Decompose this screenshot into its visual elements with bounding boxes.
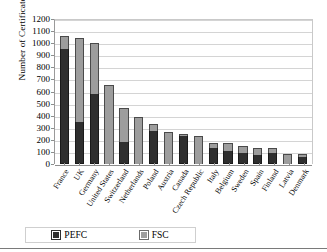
- bar-segment-pefc[interactable]: [298, 157, 307, 164]
- bar-slot: [236, 20, 251, 164]
- stacked-bar[interactable]: [149, 124, 158, 164]
- x-label-slot: Netherlands: [131, 166, 146, 222]
- bar-segment-fsc[interactable]: [119, 108, 128, 142]
- bar-segment-pefc[interactable]: [119, 142, 128, 164]
- bar-slot: [161, 20, 176, 164]
- x-label-slot: Sweden: [236, 166, 251, 222]
- bar-slot: [102, 20, 117, 164]
- bar-segment-fsc[interactable]: [90, 43, 99, 94]
- bar-slot: [280, 20, 295, 164]
- x-tick-mark: [304, 163, 305, 166]
- legend-entry[interactable]: FSC: [140, 230, 169, 240]
- bar-segment-fsc[interactable]: [134, 117, 143, 164]
- bar-segment-fsc[interactable]: [149, 124, 158, 131]
- bar-slot: [250, 20, 265, 164]
- bar-segment-pefc[interactable]: [209, 148, 218, 164]
- stacked-bar[interactable]: [209, 143, 218, 164]
- bar-slot: [221, 20, 236, 164]
- y-tick-label-400: 400: [37, 111, 51, 120]
- bar-slot: [265, 20, 280, 164]
- x-tick-mark: [199, 163, 200, 166]
- y-tick-label-200: 200: [37, 135, 51, 144]
- stacked-bar[interactable]: [238, 146, 247, 164]
- legend-entry[interactable]: PEFC: [52, 230, 87, 240]
- bar-slot: [57, 20, 72, 164]
- stacked-bar[interactable]: [194, 136, 203, 164]
- chart-legend: PEFCFSC: [25, 227, 196, 243]
- legend-swatch-fsc-icon: [140, 231, 148, 239]
- bar-slot: [176, 20, 191, 164]
- bar-segment-pefc[interactable]: [179, 136, 188, 164]
- stacked-bar[interactable]: [253, 148, 262, 164]
- bar-segment-pefc[interactable]: [90, 94, 99, 164]
- figure-bottom-rule: [0, 248, 327, 249]
- x-tick-mark: [229, 163, 230, 166]
- x-axis-label: France: [52, 168, 71, 191]
- x-tick-mark: [154, 163, 155, 166]
- bar-slot: [146, 20, 161, 164]
- y-tick-label-600: 600: [37, 87, 51, 96]
- stacked-bar[interactable]: [223, 143, 232, 164]
- x-tick-mark: [214, 163, 215, 166]
- x-tick-mark: [244, 163, 245, 166]
- bar-slot: [117, 20, 132, 164]
- bar-segment-fsc[interactable]: [223, 143, 232, 151]
- stacked-bar[interactable]: [75, 38, 84, 164]
- x-tick-mark: [289, 163, 290, 166]
- stacked-bar[interactable]: [268, 148, 277, 164]
- x-tick-mark: [184, 163, 185, 166]
- stacked-bar[interactable]: [104, 85, 113, 164]
- x-tick-mark: [64, 163, 65, 166]
- y-tick-label-700: 700: [37, 75, 51, 84]
- bar-series-group: [55, 20, 312, 164]
- x-label-slot: Austria: [161, 166, 176, 222]
- bar-segment-fsc[interactable]: [164, 132, 173, 164]
- bar-slot: [72, 20, 87, 164]
- stacked-bar[interactable]: [119, 108, 128, 164]
- x-label-slot: Finland: [266, 166, 281, 222]
- bar-slot: [87, 20, 102, 164]
- bar-segment-pefc[interactable]: [60, 49, 69, 164]
- bar-slot: [295, 20, 310, 164]
- bar-segment-fsc[interactable]: [194, 136, 203, 164]
- y-tick-label-1000: 1000: [32, 39, 50, 48]
- bar-segment-fsc[interactable]: [75, 38, 84, 123]
- stacked-bar[interactable]: [90, 43, 99, 164]
- x-label-slot: Denmark: [296, 166, 311, 222]
- bar-segment-pefc[interactable]: [149, 131, 158, 164]
- bar-slot: [131, 20, 146, 164]
- y-tick-label-500: 500: [37, 99, 51, 108]
- stacked-bar[interactable]: [298, 154, 307, 164]
- stacked-bar[interactable]: [134, 117, 143, 164]
- bar-segment-fsc[interactable]: [238, 146, 247, 153]
- x-axis-label: UK: [72, 168, 85, 182]
- bar-segment-fsc[interactable]: [104, 85, 113, 164]
- y-tick-label-800: 800: [37, 63, 51, 72]
- bar-segment-pefc[interactable]: [75, 122, 84, 164]
- x-tick-mark: [274, 163, 275, 166]
- stacked-bar[interactable]: [164, 132, 173, 164]
- bar-segment-fsc[interactable]: [60, 36, 69, 49]
- x-label-slot: Poland: [146, 166, 161, 222]
- legend-swatch-pefc-icon: [52, 231, 60, 239]
- x-tick-mark: [79, 163, 80, 166]
- y-tick-label-0: 0: [46, 160, 51, 169]
- y-tick-label-900: 900: [37, 51, 51, 60]
- bar-slot: [206, 20, 221, 164]
- y-tick-label-1200: 1200: [32, 15, 50, 24]
- x-tick-mark: [124, 163, 125, 166]
- y-tick-label-100: 100: [37, 147, 51, 156]
- bar-slot: [191, 20, 206, 164]
- x-tick-mark: [94, 163, 95, 166]
- x-tick-mark: [109, 163, 110, 166]
- x-tick-mark: [169, 163, 170, 166]
- y-axis-tick-labels: 0100200300400500600700800900100011001200: [0, 19, 54, 164]
- y-tick-label-1100: 1100: [32, 27, 50, 36]
- chart-figure: Number of Certificates 01002003004005006…: [0, 0, 327, 252]
- stacked-bar[interactable]: [179, 134, 188, 164]
- x-tick-mark: [139, 163, 140, 166]
- bar-segment-fsc[interactable]: [253, 148, 262, 155]
- x-tick-mark: [259, 163, 260, 166]
- y-tick-mark-0: [51, 164, 54, 165]
- stacked-bar[interactable]: [60, 36, 69, 164]
